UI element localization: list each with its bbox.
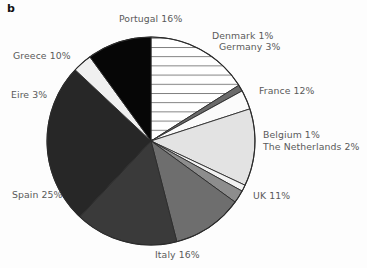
pie-label-france: France 12%	[259, 85, 315, 97]
pie-label-portugal: Portugal 16%	[119, 13, 182, 25]
pie-label-greece: Greece 10%	[13, 50, 71, 62]
pie-label-eire: Eire 3%	[11, 89, 47, 101]
pie-label-netherlands: The Netherlands 2%	[263, 141, 359, 153]
figure-container: b Portugal 16% Denmark 1% Germany 3% Fra…	[0, 0, 367, 268]
pie-label-germany: Germany 3%	[219, 41, 280, 53]
pie-slices	[47, 37, 255, 245]
pie-label-spain: Spain 25%	[12, 189, 63, 201]
pie-label-italy: Italy 16%	[155, 249, 200, 261]
pie-label-uk: UK 11%	[253, 190, 290, 202]
pie-label-denmark: Denmark 1%	[212, 30, 273, 42]
pie-label-belgium: Belgium 1%	[263, 129, 320, 141]
